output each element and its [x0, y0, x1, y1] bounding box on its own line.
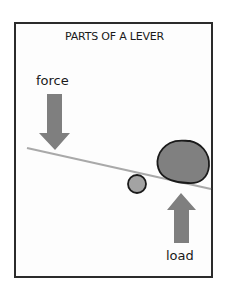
lever-diagram [0, 0, 229, 296]
force-arrow-icon [39, 94, 70, 150]
load-arrow-icon [167, 193, 196, 243]
fulcrum [128, 175, 146, 193]
load-object [157, 141, 209, 184]
